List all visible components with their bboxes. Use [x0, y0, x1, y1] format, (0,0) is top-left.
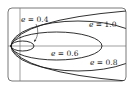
label-e-0-8: e = 0.8 [90, 58, 118, 67]
conic-eccentricity-diagram: e = 0.4 e = 1.0 e = 0.6 e = 0.8 [0, 0, 132, 88]
label-e-0-4: e = 0.4 [21, 15, 49, 24]
label-e-0-6: e = 0.6 [51, 49, 79, 58]
label-e-1-0: e = 1.0 [89, 20, 117, 29]
arrowhead-icon [34, 40, 36, 43]
